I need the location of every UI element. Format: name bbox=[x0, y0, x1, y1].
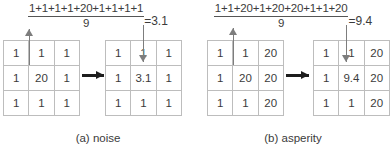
grid-cell: 1 bbox=[314, 91, 339, 116]
grid-cell: 20 bbox=[365, 91, 390, 116]
right-arrow-icon bbox=[82, 71, 104, 80]
arrow-head bbox=[229, 28, 237, 35]
grid-cell: 1 bbox=[55, 66, 80, 91]
grid-cell: 1 bbox=[208, 66, 233, 91]
panel-noise: 1+1+1+1+20+1+1+1+1 9 =3.1 1 1 1 1 20 1 1… bbox=[0, 0, 196, 150]
grid-cell: 20 bbox=[259, 91, 284, 116]
grid-cell: 1 bbox=[29, 91, 54, 116]
grid-cell: 1 bbox=[106, 41, 131, 66]
fraction-numerator: 1+1+1+1+20+1+1+1+1 bbox=[28, 3, 144, 16]
grid-cell: 1 bbox=[106, 91, 131, 116]
grid-cell: 1 bbox=[208, 41, 233, 66]
grid-cell: 1 bbox=[233, 41, 258, 66]
grid-cell-center: 9.4 bbox=[339, 66, 364, 91]
grid-cell: 1 bbox=[106, 66, 131, 91]
right-arrow-icon bbox=[286, 71, 309, 80]
grid-cell: 1 bbox=[314, 66, 339, 91]
input-grid-asperity: 1 1 20 1 20 20 1 1 20 bbox=[207, 40, 284, 116]
grid-cell: 1 bbox=[314, 41, 339, 66]
grid-cell: 1 bbox=[55, 91, 80, 116]
formula-result: =9.4 bbox=[348, 14, 372, 29]
fraction-denominator: 9 bbox=[83, 17, 89, 29]
grid-cell: 20 bbox=[365, 41, 390, 66]
grid-cell: 20 bbox=[259, 66, 284, 91]
grid-cell-center: 20 bbox=[29, 66, 54, 91]
grid-cell: 1 bbox=[339, 91, 364, 116]
grid-cell: 1 bbox=[4, 91, 29, 116]
grid-cell: 1 bbox=[55, 41, 80, 66]
formula-result: =3.1 bbox=[144, 14, 168, 29]
grid-cell: 1 bbox=[131, 91, 156, 116]
fraction-numerator: 1+1+20+1+20+20+1+1+20 bbox=[214, 3, 349, 16]
grid-cell: 1 bbox=[29, 41, 54, 66]
grid-cell: 1 bbox=[157, 66, 182, 91]
arrow-head bbox=[25, 29, 33, 36]
grid-cell-center: 3.1 bbox=[131, 66, 156, 91]
grid-cell: 1 bbox=[233, 91, 258, 116]
grid-cell: 1 bbox=[157, 41, 182, 66]
formula-noise: 1+1+1+1+20+1+1+1+1 9 =3.1 bbox=[0, 3, 196, 29]
fraction-denominator: 9 bbox=[278, 17, 284, 29]
grid-cell: 20 bbox=[259, 41, 284, 66]
caption-noise: (a) noise bbox=[0, 132, 196, 144]
figure-noise-asperity: 1+1+1+1+20+1+1+1+1 9 =3.1 1 1 1 1 20 1 1… bbox=[0, 0, 391, 150]
formula-asperity: 1+1+20+1+20+20+1+1+20 9 =9.4 bbox=[195, 3, 391, 29]
grid-cell: 1 bbox=[157, 91, 182, 116]
output-grid-asperity: 1 1 20 1 9.4 20 1 1 20 bbox=[313, 40, 390, 116]
input-grid-noise: 1 1 1 1 20 1 1 1 1 bbox=[3, 40, 80, 116]
arrow-shaft bbox=[286, 74, 309, 77]
grid-cell: 1 bbox=[131, 41, 156, 66]
output-grid-noise: 1 1 1 1 3.1 1 1 1 1 bbox=[105, 40, 182, 116]
grid-cell: 20 bbox=[365, 66, 390, 91]
fraction-asperity: 1+1+20+1+20+20+1+1+20 9 bbox=[214, 3, 349, 29]
fraction-noise: 1+1+1+1+20+1+1+1+1 9 bbox=[28, 3, 144, 29]
arrow-head bbox=[301, 71, 309, 79]
arrow-shaft bbox=[82, 74, 104, 77]
panel-asperity: 1+1+20+1+20+20+1+1+20 9 =9.4 1 1 20 1 20… bbox=[195, 0, 391, 150]
arrow-head bbox=[96, 71, 104, 79]
grid-cell: 1 bbox=[4, 66, 29, 91]
grid-cell-center: 20 bbox=[233, 66, 258, 91]
grid-cell: 1 bbox=[208, 91, 233, 116]
grid-cell: 1 bbox=[339, 41, 364, 66]
caption-asperity: (b) asperity bbox=[195, 132, 391, 144]
grid-cell: 1 bbox=[4, 41, 29, 66]
